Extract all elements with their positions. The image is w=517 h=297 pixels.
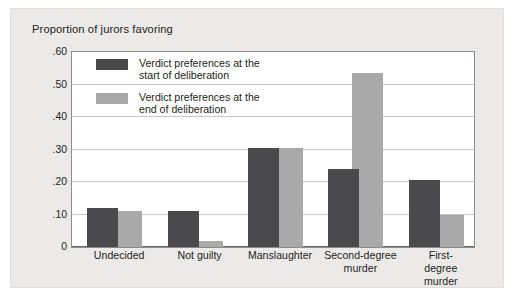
bar: [168, 211, 199, 247]
y-axis-tick-label: .50: [53, 78, 67, 89]
legend-label-start: Verdict preferences at the start of deli…: [139, 57, 260, 82]
page-title: Proportion of jurors favoring: [32, 23, 173, 35]
bar: [409, 180, 440, 247]
legend-label-end: Verdict preferences at the end of delibe…: [139, 91, 260, 116]
x-axis-tick-label: Not guilty: [178, 249, 222, 262]
bar: [87, 208, 118, 247]
y-axis-tick-label: .40: [53, 111, 67, 122]
y-axis-tick-label: .20: [53, 176, 67, 187]
legend-item: Verdict preferences at the start of deli…: [96, 57, 260, 82]
legend-item: Verdict preferences at the end of delibe…: [96, 91, 260, 116]
figure-panel: Proportion of jurors favoring .60.50.40.…: [10, 8, 504, 288]
y-axis-tick-label: .30: [53, 143, 67, 154]
x-axis-tick-label: First-degree murder: [424, 249, 458, 289]
bar: [328, 169, 359, 247]
y-axis-labels: .60.50.40.30.20.100: [29, 51, 67, 246]
x-axis-tick-label: Undecided: [94, 249, 145, 262]
legend-swatch-start-icon: [96, 59, 128, 70]
x-axis-tick-label: Manslaughter: [248, 249, 312, 262]
y-axis-tick-label: .10: [53, 208, 67, 219]
y-axis-tick-label: .60: [53, 46, 67, 57]
legend-swatch-end-icon: [96, 93, 128, 104]
x-axis-tick-label: Second-degree murder: [324, 249, 396, 275]
x-axis-labels: UndecidedNot guiltyManslaughterSecond-de…: [71, 249, 473, 287]
chart-legend: Verdict preferences at the start of deli…: [96, 57, 260, 125]
y-axis-tick-label: 0: [61, 241, 67, 252]
bar: [248, 148, 279, 247]
